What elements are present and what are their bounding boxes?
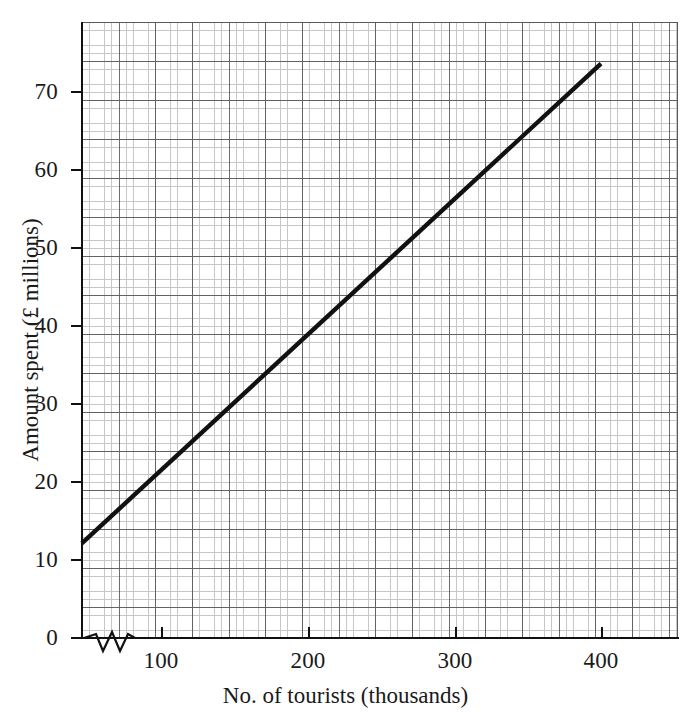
x-axis-title: No. of tourists (thousands) (0, 684, 691, 708)
data-series-line (82, 64, 601, 544)
line-chart: 0 10 20 30 40 50 60 70 100 200 300 400 N… (0, 0, 691, 712)
data-layer (0, 0, 691, 712)
x-axis-break-icon (84, 632, 135, 651)
